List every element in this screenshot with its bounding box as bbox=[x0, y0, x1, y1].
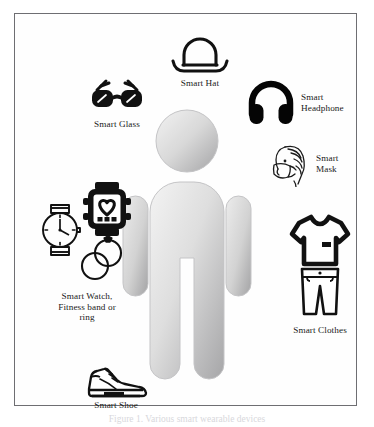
node-label-glass: Smart Glass bbox=[70, 119, 164, 130]
analog-watch-icon bbox=[38, 201, 82, 259]
figure-caption: Figure 1. Various smart wearable devices bbox=[0, 414, 374, 427]
smart-hat-icon bbox=[169, 36, 231, 76]
node-smart-watch: Smart Watch, Fitness band or ring bbox=[33, 181, 141, 323]
smart-shoe-icon bbox=[82, 363, 150, 399]
figure-panel: Smart Hat Smart Glass bbox=[14, 13, 357, 406]
node-label-shoe: Smart Shoe bbox=[62, 400, 170, 411]
node-smart-hat: Smart Hat bbox=[154, 36, 246, 89]
smart-mask-icon bbox=[268, 141, 312, 187]
figure-torso-legs bbox=[150, 182, 224, 379]
node-label-clothes: Smart Clothes bbox=[271, 325, 369, 336]
node-label-headphone: Smart Headphone bbox=[301, 92, 344, 113]
node-smart-glass: Smart Glass bbox=[70, 77, 164, 130]
node-smart-clothes: Smart Clothes bbox=[271, 212, 369, 336]
smartwatch-heartrate-icon bbox=[81, 181, 133, 237]
node-label-mask: Smart Mask bbox=[316, 153, 338, 174]
figure-arm-right bbox=[226, 196, 251, 296]
node-label-hat: Smart Hat bbox=[154, 78, 246, 89]
smart-glasses-icon bbox=[88, 77, 146, 117]
node-smart-mask: Smart Mask bbox=[268, 141, 372, 187]
node-smart-shoe: Smart Shoe bbox=[62, 363, 170, 411]
smart-rings-icon bbox=[77, 236, 129, 284]
node-smart-headphone: Smart Headphone bbox=[246, 80, 370, 126]
smart-headphone-icon bbox=[246, 80, 296, 126]
watch-icon-cluster bbox=[33, 181, 141, 291]
node-label-watch: Smart Watch, Fitness band or ring bbox=[33, 291, 141, 323]
smart-clothes-icon bbox=[288, 212, 352, 322]
figure-head bbox=[156, 110, 218, 172]
